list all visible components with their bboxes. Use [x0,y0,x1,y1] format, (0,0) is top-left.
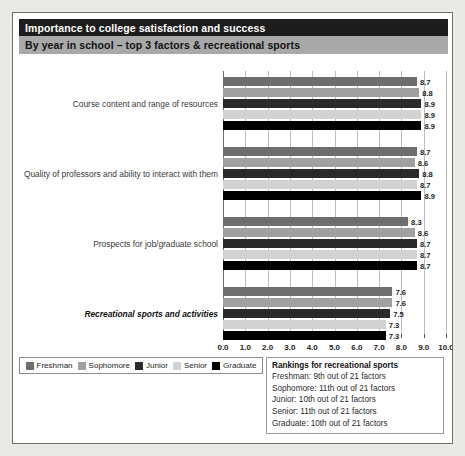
chart-subtitle-bar: By year in school – top 3 factors & recr… [19,36,448,54]
bar-row: 8.7 [223,77,446,86]
ranking-line: Freshman: 9th out of 21 factors [272,371,438,383]
bar-row: 8.8 [223,88,446,97]
bar-value-label: 8.9 [424,99,435,108]
legend-swatch-icon [78,362,86,370]
x-axis-tick [446,334,447,338]
x-axis-tick-label: 0.0 [217,343,228,352]
chart-title: Importance to college satisfaction and s… [25,22,265,34]
x-axis-tick-label: 2.0 [262,343,273,352]
chart-subtitle: By year in school – top 3 factors & recr… [25,39,300,51]
bar-row: 8.6 [223,228,446,237]
bar-value-label: 8.7 [420,147,431,156]
x-axis-tick-label: 3.0 [284,343,295,352]
bar-row: 8.7 [223,147,446,156]
bar-value-label: 8.7 [420,77,431,86]
bar-freshman [223,147,417,156]
legend-swatch-icon [26,362,34,370]
x-axis-tick-label: 5.0 [329,343,340,352]
x-axis-tick-label: 6.0 [351,343,362,352]
legend-item: Graduate [212,361,256,370]
bar-value-label: 8.7 [420,261,431,270]
bar-row: 7.3 [223,320,446,329]
legend-item: Junior [135,361,168,370]
category-label: Prospects for job/graduate school [18,239,218,249]
bar-row: 7.6 [223,298,446,307]
ranking-line: Sophomore: 11th out of 21 factors [272,383,438,395]
bar-row: 8.7 [223,239,446,248]
legend-label: Freshman [37,361,73,370]
bar-row: 8.8 [223,169,446,178]
bar-value-label: 8.6 [418,228,429,237]
legend-label: Sophomore [89,361,130,370]
legend-item: Freshman [26,361,73,370]
category-label: Course content and range of resources [18,99,218,109]
bar-group: Prospects for job/graduate school8.38.68… [223,217,446,272]
bar-group: Recreational sports and activities7.67.6… [223,287,446,342]
chart-title-bar: Importance to college satisfaction and s… [19,19,448,36]
bar-junior [223,309,390,318]
bar-sophomore [223,158,415,167]
bar-value-label: 8.9 [424,110,435,119]
rankings-lines: Freshman: 9th out of 21 factorsSophomore… [272,371,438,429]
rankings-box: Rankings for recreational sports Freshma… [266,357,444,434]
x-axis-tick-label: 1.0 [240,343,251,352]
bar-value-label: 8.9 [424,121,435,130]
bar-value-label: 8.7 [420,250,431,259]
bar-row: 7.5 [223,309,446,318]
bar-value-label: 7.5 [393,309,404,318]
bar-senior [223,250,417,259]
legend-label: Graduate [223,361,256,370]
bar-value-label: 8.3 [411,217,422,226]
bar-value-label: 8.7 [420,180,431,189]
bar-freshman [223,217,408,226]
bar-row: 8.3 [223,217,446,226]
bar-graduate [223,331,386,340]
legend-item: Senior [173,361,207,370]
x-axis-tick-label: 7.0 [374,343,385,352]
x-axis-tick-label: 9.0 [418,343,429,352]
bar-graduate [223,121,421,130]
bar-value-label: 7.3 [389,331,400,340]
category-label: Recreational sports and activities [18,309,218,319]
plot-area: 0.01.02.03.04.05.06.07.08.09.010.0 Cours… [13,57,453,357]
x-axis-tick-label: 10.0 [438,343,453,352]
bar-value-label: 8.8 [422,169,433,178]
bar-junior [223,239,417,248]
legend-item: Sophomore [78,361,130,370]
legend-swatch-icon [173,362,181,370]
legend-label: Junior [146,361,168,370]
bar-row: 8.9 [223,99,446,108]
bar-graduate [223,191,421,200]
bar-row: 8.7 [223,180,446,189]
legend: FreshmanSophomoreJuniorSeniorGraduate [19,357,263,374]
bar-value-label: 8.8 [422,88,433,97]
bar-value-label: 8.7 [420,239,431,248]
bar-freshman [223,287,392,296]
bar-row: 8.7 [223,261,446,270]
bar-row: 7.6 [223,287,446,296]
bar-value-label: 8.6 [418,158,429,167]
bar-senior [223,180,417,189]
bar-value-label: 7.6 [395,287,406,296]
x-axis-tick-label: 8.0 [396,343,407,352]
bar-sophomore [223,298,392,307]
bar-group: Quality of professors and ability to int… [223,147,446,202]
bar-row: 8.6 [223,158,446,167]
bar-sophomore [223,228,415,237]
rankings-title: Rankings for recreational sports [272,361,438,370]
ranking-line: Junior: 10th out of 21 factors [272,394,438,406]
bar-row: 8.7 [223,250,446,259]
bar-junior [223,169,419,178]
axes: 0.01.02.03.04.05.06.07.08.09.010.0 Cours… [223,71,446,349]
bar-senior [223,320,386,329]
bar-senior [223,110,421,119]
bar-graduate [223,261,417,270]
bar-row: 8.9 [223,110,446,119]
bar-freshman [223,77,417,86]
bar-value-label: 7.3 [389,320,400,329]
bar-junior [223,99,421,108]
ranking-line: Graduate: 10th out of 21 factors [272,418,438,430]
bar-row: 8.9 [223,191,446,200]
x-axis-tick-label: 4.0 [307,343,318,352]
bar-sophomore [223,88,419,97]
